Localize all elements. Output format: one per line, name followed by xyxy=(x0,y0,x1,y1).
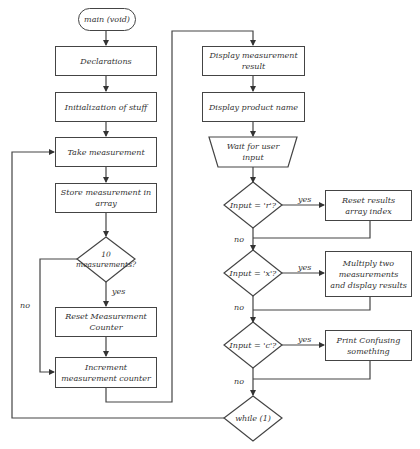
declarations-box: Declarations xyxy=(55,46,157,76)
decision-input-r: Input = 'r'? xyxy=(226,198,280,212)
decision-while-label: while (1) xyxy=(235,413,271,424)
wait-input-label: Wait for user input xyxy=(220,141,286,163)
edge-label-10-no: no xyxy=(20,301,30,311)
decision-10-measurements: 10 measurements? xyxy=(84,242,128,278)
wait-input: Wait for user input xyxy=(220,138,286,166)
reset-counter-box: Reset Measurement Counter xyxy=(55,307,157,337)
multiply-box: Multiply two measurements and display re… xyxy=(325,251,412,297)
edge-label-x-yes: yes xyxy=(298,263,311,273)
take-measurement-label: Take measurement xyxy=(67,147,144,158)
display-product-box: Display product name xyxy=(202,92,305,122)
print-confusing-label: Print Confusing something xyxy=(330,335,407,357)
display-result-box: Display measurement result xyxy=(202,46,305,76)
decision-input-r-label: Input = 'r'? xyxy=(230,200,276,211)
decision-10-measurements-label: 10 measurements? xyxy=(76,250,136,270)
display-product-label: Display product name xyxy=(209,102,298,113)
multiply-label: Multiply two measurements and display re… xyxy=(330,258,407,291)
start-terminator: main (void) xyxy=(78,8,136,31)
decision-input-x-label: Input = 'x'? xyxy=(230,268,277,279)
increment-counter-label: Increment measurement counter xyxy=(60,362,152,384)
edge-label-c-no: no xyxy=(234,377,244,387)
init-label: Initialization of stuff xyxy=(65,102,147,113)
edge-label-x-no: no xyxy=(234,303,244,313)
print-confusing-box: Print Confusing something xyxy=(325,330,412,361)
decision-while: while (1) xyxy=(226,411,280,425)
edge-label-10-yes: yes xyxy=(112,287,125,297)
display-result-label: Display measurement result xyxy=(207,50,300,72)
edge-label-r-yes: yes xyxy=(298,195,311,205)
edge-label-r-no: no xyxy=(234,235,244,245)
init-box: Initialization of stuff xyxy=(55,92,157,122)
reset-index-box: Reset results array index xyxy=(325,190,412,221)
decision-input-x: Input = 'x'? xyxy=(226,266,280,280)
store-measurement-label: Store measurement in array xyxy=(60,187,152,209)
edge-label-c-yes: yes xyxy=(298,335,311,345)
take-measurement-box: Take measurement xyxy=(55,137,157,167)
store-measurement-box: Store measurement in array xyxy=(55,183,157,213)
reset-index-label: Reset results array index xyxy=(330,195,407,217)
reset-counter-label: Reset Measurement Counter xyxy=(60,311,152,333)
start-label: main (void) xyxy=(84,14,130,25)
declarations-label: Declarations xyxy=(80,56,131,67)
increment-counter-box: Increment measurement counter xyxy=(55,357,157,388)
decision-input-c-label: Input = 'c'? xyxy=(230,340,277,351)
decision-input-c: Input = 'c'? xyxy=(226,338,280,352)
